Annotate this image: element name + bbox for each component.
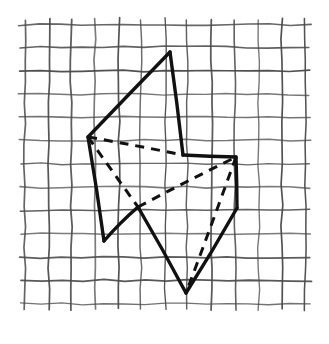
figure-canvas (0, 0, 329, 344)
polyhedron-diagram (0, 0, 329, 344)
shape-edge-solid (236, 157, 237, 208)
shape-edge-solid (183, 155, 236, 157)
